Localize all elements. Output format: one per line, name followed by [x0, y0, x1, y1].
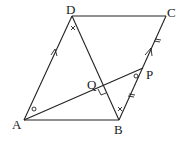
segment-ap: [24, 68, 143, 120]
angle-cross-d: [71, 26, 75, 30]
geometry-diagram: A B C D P Q: [0, 0, 188, 142]
segment-db: [72, 16, 119, 120]
angle-cross-b: [118, 107, 122, 111]
label-p: P: [146, 67, 153, 82]
angle-circle-p: [134, 74, 138, 78]
label-q: Q: [87, 77, 97, 92]
segment-da: [24, 16, 72, 120]
label-c: C: [167, 5, 176, 20]
angle-circle-a: [32, 107, 36, 111]
label-b: B: [114, 122, 123, 137]
equal-tick-bp: [128, 94, 135, 97]
label-a: A: [12, 117, 22, 132]
label-d: D: [66, 2, 75, 17]
